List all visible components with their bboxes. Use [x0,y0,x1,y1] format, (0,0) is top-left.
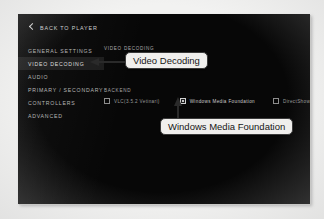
sidebar-item-controllers[interactable]: CONTROLLERS [18,96,104,109]
backend-options-group: VLC(3.5.2 Vetinari) Windows Media Founda… [104,98,310,104]
annotation-callout-windows-media-foundation: Windows Media Foundation [160,118,293,135]
checkbox-label: Windows Media Foundation [190,99,255,104]
backend-section-label: BACKEND [104,88,131,93]
sidebar-item-label: AUDIO [28,74,48,80]
back-to-player-button[interactable]: BACK TO PLAYER [28,22,98,33]
arrow-head [174,97,182,106]
settings-sidebar: GENERAL SETTINGS VIDEO DECODING AUDIO PR… [18,44,104,122]
sidebar-item-label: VIDEO DECODING [28,61,84,67]
sidebar-item-label: GENERAL SETTINGS [28,48,92,54]
sidebar-item-advanced[interactable]: ADVANCED [18,109,104,122]
video-decoding-section-label: VIDEO DECODING [104,46,154,51]
sidebar-item-label: CONTROLLERS [28,100,76,106]
sidebar-item-label: ADVANCED [28,113,63,119]
arrow-head [90,58,99,66]
checkbox-windows-media-foundation[interactable]: Windows Media Foundation [180,98,255,104]
arrow-up-icon [174,97,183,119]
annotation-callout-text: Video Decoding [133,55,200,66]
checkbox-box-unchecked-icon[interactable] [273,98,279,104]
sidebar-item-audio[interactable]: AUDIO [18,70,104,83]
arrow-left-icon [90,58,126,67]
chevron-left-icon [28,22,35,33]
back-to-player-label: BACK TO PLAYER [40,25,98,31]
arrow-shaft [98,61,126,63]
annotation-callout-video-decoding: Video Decoding [125,52,208,69]
checkbox-vlc[interactable]: VLC(3.5.2 Vetinari) [104,98,160,104]
sidebar-item-label: PRIMARY / SECONDARY [28,87,103,93]
settings-panel: BACK TO PLAYER GENERAL SETTINGS VIDEO DE… [18,14,310,204]
page-background: BACK TO PLAYER GENERAL SETTINGS VIDEO DE… [0,0,324,219]
arrow-shaft [177,105,179,119]
sidebar-item-primary-secondary[interactable]: PRIMARY / SECONDARY [18,83,104,96]
checkbox-label: VLC(3.5.2 Vetinari) [114,99,160,104]
checkbox-label: DirectShow [283,99,310,104]
sidebar-item-general-settings[interactable]: GENERAL SETTINGS [18,44,104,57]
checkbox-box-unchecked-icon[interactable] [104,98,110,104]
checkbox-directshow[interactable]: DirectShow [273,98,310,104]
annotation-callout-text: Windows Media Foundation [168,121,285,132]
